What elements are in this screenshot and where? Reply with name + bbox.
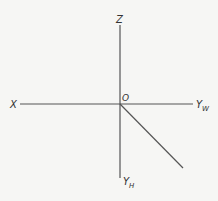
yw-label: YW bbox=[196, 99, 210, 113]
z-label: Z bbox=[115, 14, 124, 25]
axis-diagram: Z X O YW YH bbox=[0, 0, 218, 201]
x-label: X bbox=[9, 99, 18, 110]
diagonal-line bbox=[120, 104, 183, 168]
yh-label: YH bbox=[123, 176, 135, 190]
origin-label: O bbox=[122, 93, 129, 103]
